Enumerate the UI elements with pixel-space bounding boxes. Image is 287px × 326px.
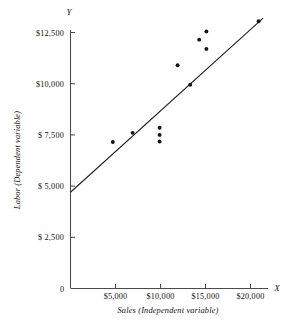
data-point [158,133,162,137]
y-tick-label: $ 7,500 [38,131,64,140]
data-points-group [111,19,261,144]
origin-label: 0 [60,285,64,294]
x-tick-label: $20,000 [236,292,264,301]
data-point [257,19,261,23]
x-tick-label: $10,000 [146,292,174,301]
y-tick-label: $10,000 [36,80,64,89]
data-point [158,126,162,130]
x-axis-ticks: $5,000$10,000$15,000$20,000 [104,284,265,301]
y-tick-label: $ 2,500 [38,233,64,242]
chart-canvas: Y X 0 $ 2,500$ 5,000$ 7,500$10,000$12,50… [0,0,287,326]
regression-line [71,18,264,192]
y-axis-ticks: $ 2,500$ 5,000$ 7,500$10,000$12,500$15,0… [36,0,75,242]
data-point [176,63,180,67]
data-point [111,140,115,144]
data-point [204,30,208,34]
data-point [197,38,201,42]
trend-line-group [71,18,264,192]
x-axis-name: X [273,283,280,293]
data-point [188,83,192,87]
y-axis-name: Y [66,7,72,17]
scatter-chart: Y X 0 $ 2,500$ 5,000$ 7,500$10,000$12,50… [0,0,287,326]
y-tick-label: $ 5,000 [38,182,64,191]
x-tick-label: $15,000 [191,292,219,301]
data-point [204,47,208,51]
x-tick-label: $5,000 [104,292,128,301]
data-point [158,140,162,144]
x-axis-title: Sales (Independent variable) [118,306,219,315]
y-axis-title: Labor (Dependent variable) [13,111,22,210]
data-point [131,131,135,135]
y-tick-label: $12,500 [36,29,64,38]
